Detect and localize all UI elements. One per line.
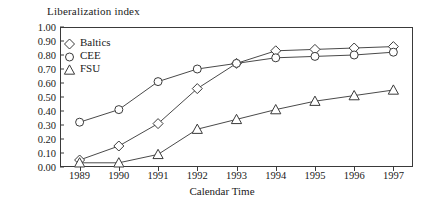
x-tick-label: 1997 [383,170,404,181]
x-tick-mark [354,167,355,171]
y-tick-label: 0.20 [38,134,56,145]
x-tick-label: 1991 [148,170,169,181]
circle-icon [62,49,77,61]
x-tick-mark [237,167,238,171]
y-tick-mark [60,83,64,84]
circle-glyph [66,53,74,61]
y-tick-mark [60,55,64,56]
y-tick-mark [60,41,64,42]
y-tick-label: 0.30 [38,120,56,131]
legend-item-fsu: FSU [62,62,111,74]
y-tick-mark [60,69,64,70]
chart-legend: BalticsCEEFSU [62,36,111,75]
x-tick-label: 1992 [187,170,208,181]
legend-label: CEE [80,49,101,61]
x-tick-mark [158,167,159,171]
triangle-glyph [64,65,74,74]
y-tick-label: 0.70 [38,64,56,75]
y-tick-label: 0.90 [38,36,56,47]
x-tick-mark [80,167,81,171]
legend-label: Baltics [80,36,111,48]
triangle-icon [62,62,77,74]
x-tick-mark [197,167,198,171]
x-tick-label: 1996 [344,170,365,181]
x-axis-title: Calendar Time [0,185,444,197]
y-tick-label: 0.00 [38,162,56,173]
chart-title: Liberalization index [47,5,140,17]
y-tick-mark [60,167,64,168]
y-tick-label: 0.50 [38,92,56,103]
diamond-icon [62,36,77,48]
x-tick-label: 1995 [304,170,325,181]
legend-item-baltics: Baltics [62,36,111,48]
y-tick-label: 0.10 [38,148,56,159]
x-tick-mark [315,167,316,171]
diamond-glyph [65,39,75,49]
legend-label: FSU [80,62,100,74]
y-tick-label: 0.60 [38,78,56,89]
x-tick-label: 1989 [69,170,90,181]
y-tick-mark [60,125,64,126]
y-tick-mark [60,139,64,140]
x-tick-label: 1994 [265,170,286,181]
x-tick-label: 1990 [108,170,129,181]
y-tick-mark [60,111,64,112]
plot-area [60,27,413,167]
y-axis-tick-labels: 0.000.100.200.300.400.500.600.700.800.90… [0,27,56,167]
x-tick-mark [276,167,277,171]
y-tick-label: 0.80 [38,50,56,61]
x-tick-mark [393,167,394,171]
x-tick-label: 1993 [226,170,247,181]
chart-container: Liberalization index 0.000.100.200.300.4… [0,0,444,208]
legend-item-cee: CEE [62,49,111,61]
y-tick-mark [60,27,64,28]
y-tick-label: 1.00 [38,22,56,33]
y-tick-mark [60,97,64,98]
y-tick-mark [60,153,64,154]
y-tick-label: 0.40 [38,106,56,117]
x-tick-mark [119,167,120,171]
